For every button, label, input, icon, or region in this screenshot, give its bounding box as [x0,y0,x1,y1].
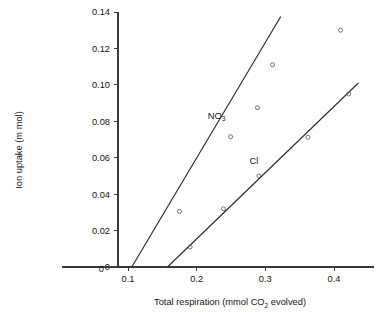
x-axis: 00.10.20.30.4 [62,264,374,284]
series-cl: Cl [167,83,358,267]
data-point-marker [339,28,343,32]
y-tick-label: 0.04 [92,190,110,200]
y-tick-label: 0.14 [92,7,110,17]
y-tick-label: 0.12 [92,44,110,54]
ion-uptake-scatter-chart: 00.020.040.060.080.100.120.14 00.10.20.3… [0,0,384,312]
chart-figure: 00.020.040.060.080.100.120.14 00.10.20.3… [0,0,384,312]
data-point-marker [221,207,225,211]
x-tick-label: 0.3 [259,274,272,284]
x-axis-title: Total respiration (mmol CO2 evolved) [154,297,306,309]
data-point-marker [255,106,259,110]
data-point-marker [229,135,233,139]
regression-line-cl [167,83,358,267]
y-tick-label: 0.08 [92,117,110,127]
series-label-cl: Cl [250,156,259,166]
data-point-marker [271,63,275,67]
series-label-no3: NO3 [208,111,226,123]
data-point-marker [178,209,182,213]
x-tick-label: 0.2 [190,274,203,284]
x-tick-label: 0.4 [328,274,341,284]
x-tick-label: 0.1 [122,274,135,284]
y-tick-label: 0.10 [92,80,110,90]
x-tick-label: 0 [99,264,104,274]
y-tick-label: 0.06 [92,153,110,163]
data-point-marker [306,135,310,139]
data-point-marker [257,174,261,178]
series-no3: NO3 [132,17,343,267]
y-axis: 00.020.040.060.080.100.120.14 [92,7,118,272]
y-axis-title: Ion uptake (m mol) [14,111,24,189]
plot-area: NO3Cl [132,17,359,267]
y-axis-ticks: 00.020.040.060.080.100.120.14 [92,7,118,272]
y-tick-label: 0.02 [92,226,110,236]
